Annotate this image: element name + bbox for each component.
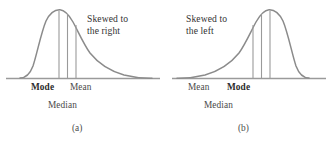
panel-skewed-right: Skewed to the right Mode Mean Median (a): [0, 0, 165, 143]
annotation-line-2: the right: [87, 25, 120, 36]
annotation-line-1: Skewed to: [87, 13, 128, 24]
panel-a-graphic: [0, 0, 165, 143]
label-mode: Mode: [227, 83, 250, 92]
panel-caption-b: (b): [238, 124, 249, 133]
label-median: Median: [204, 101, 233, 110]
label-mode: Mode: [31, 83, 54, 92]
label-mean: Mean: [70, 83, 92, 92]
label-median: Median: [48, 101, 77, 110]
panel-skewed-left: Skewed to the left Mean Mode Median (b): [164, 0, 329, 143]
annotation-skewed-right: Skewed to the right: [87, 13, 128, 36]
label-mean: Mean: [188, 83, 210, 92]
density-curve-right-skewed: [20, 10, 152, 79]
annotation-line-1: Skewed to: [186, 13, 227, 24]
annotation-line-2: the left: [186, 25, 214, 36]
annotation-skewed-left: Skewed to the left: [186, 13, 227, 36]
panel-caption-a: (a): [72, 124, 82, 133]
skewness-figure: Skewed to the right Mode Mean Median (a)…: [0, 0, 329, 143]
